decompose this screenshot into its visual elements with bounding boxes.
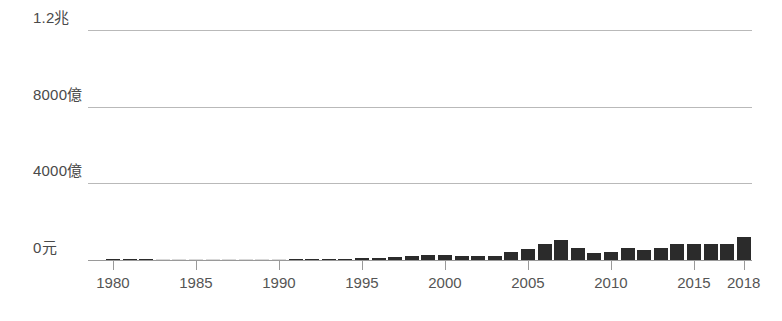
bar bbox=[654, 248, 668, 260]
bar bbox=[338, 259, 352, 261]
x-axis-label: 1985 bbox=[179, 275, 212, 290]
plot-area bbox=[88, 30, 752, 260]
x-axis-tick bbox=[694, 261, 695, 270]
bar bbox=[322, 259, 336, 261]
x-axis-tick bbox=[744, 261, 745, 270]
y-axis-label: 1.2兆 bbox=[33, 10, 70, 25]
bar bbox=[172, 259, 186, 261]
x-axis-tick bbox=[362, 261, 363, 270]
bar bbox=[720, 244, 734, 260]
bar bbox=[206, 259, 220, 261]
bar bbox=[388, 257, 402, 260]
bar bbox=[222, 259, 236, 261]
y-axis-label: 4000億 bbox=[33, 163, 82, 178]
bar bbox=[637, 250, 651, 260]
bar bbox=[189, 259, 203, 261]
gridline-0元 bbox=[88, 260, 752, 261]
bar bbox=[305, 259, 319, 261]
x-axis-tick bbox=[279, 261, 280, 270]
y-axis-label: 0元 bbox=[33, 240, 57, 255]
bar bbox=[272, 259, 286, 261]
bar bbox=[438, 255, 452, 260]
bar bbox=[504, 252, 518, 260]
bar bbox=[471, 256, 485, 260]
bar bbox=[139, 259, 153, 261]
x-axis-tick bbox=[528, 261, 529, 270]
bar bbox=[123, 259, 137, 261]
bar bbox=[687, 244, 701, 260]
x-axis-label: 2000 bbox=[428, 275, 461, 290]
bar bbox=[106, 259, 120, 261]
bar bbox=[554, 240, 568, 260]
x-axis-tick bbox=[611, 261, 612, 270]
x-axis-tick bbox=[196, 261, 197, 270]
bar bbox=[421, 255, 435, 260]
bar bbox=[670, 244, 684, 260]
bar bbox=[538, 244, 552, 260]
bar bbox=[604, 252, 618, 260]
bar bbox=[704, 244, 718, 260]
bar-chart: 0元4000億8000億1.2兆 19801985199019952000200… bbox=[0, 0, 782, 321]
bar bbox=[405, 256, 419, 261]
bar bbox=[156, 259, 170, 261]
x-axis-label: 2015 bbox=[677, 275, 710, 290]
bar bbox=[255, 259, 269, 261]
x-axis-tick bbox=[445, 261, 446, 270]
x-axis-label: 2005 bbox=[511, 275, 544, 290]
bar bbox=[372, 258, 386, 260]
bar bbox=[289, 259, 303, 261]
bar bbox=[571, 248, 585, 260]
x-axis-tick bbox=[113, 261, 114, 270]
bar bbox=[488, 256, 502, 260]
bar bbox=[355, 258, 369, 260]
x-axis-label: 1980 bbox=[96, 275, 129, 290]
bar bbox=[455, 256, 469, 260]
x-axis-label: 2018 bbox=[727, 275, 760, 290]
x-axis-label: 1990 bbox=[262, 275, 295, 290]
bar bbox=[587, 253, 601, 260]
bar bbox=[239, 259, 253, 261]
y-axis-label: 8000億 bbox=[33, 87, 82, 102]
bar bbox=[521, 249, 535, 260]
x-axis-label: 2010 bbox=[594, 275, 627, 290]
bar bbox=[737, 237, 751, 260]
bar bbox=[621, 248, 635, 260]
x-axis-label: 1995 bbox=[345, 275, 378, 290]
